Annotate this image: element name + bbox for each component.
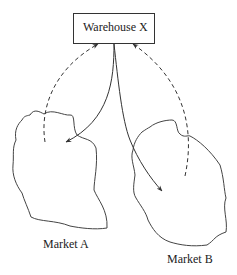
market-b-region bbox=[132, 120, 227, 246]
warehouse-label: Warehouse X bbox=[83, 20, 148, 35]
flow-warehouse-to-market-a bbox=[66, 44, 114, 142]
diagram-canvas bbox=[0, 0, 237, 275]
flow-warehouse-to-market-b bbox=[114, 44, 162, 191]
market-a-region bbox=[13, 111, 107, 229]
flow-market-b-to-warehouse bbox=[133, 44, 188, 176]
market-b-label: Market B bbox=[167, 252, 213, 267]
flow-market-a-to-warehouse bbox=[44, 44, 98, 142]
market-a-label: Market A bbox=[43, 237, 89, 252]
